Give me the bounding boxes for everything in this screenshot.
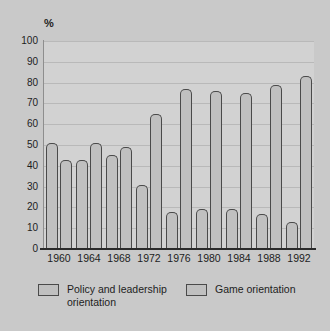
bar-1964-policy xyxy=(76,160,88,249)
y-tick-label-80: 80 xyxy=(14,78,38,88)
bar-group-1960 xyxy=(46,41,72,249)
bar-1980-policy xyxy=(196,209,208,249)
bar-group-1972 xyxy=(136,41,162,249)
bar-group-1980 xyxy=(196,41,222,249)
bar-group-1968 xyxy=(106,41,132,249)
legend-swatch-policy xyxy=(38,284,59,296)
y-tick-label-60: 60 xyxy=(14,119,38,129)
bar-1960-game xyxy=(60,160,72,249)
legend-label-policy-line2: orientation xyxy=(67,296,116,308)
bar-1968-policy xyxy=(106,155,118,249)
y-tick-label-70: 70 xyxy=(14,98,38,108)
plot-area xyxy=(44,41,314,249)
legend-label-policy-line1: Policy and leadership xyxy=(67,283,167,295)
bar-1988-policy xyxy=(256,214,268,249)
legend-item-game: Game orientation xyxy=(186,283,296,296)
bar-group-1964 xyxy=(76,41,102,249)
bar-1976-game xyxy=(180,89,192,249)
x-axis-tick-labels: 196019641968197219761980198419881992 xyxy=(44,252,314,268)
bar-1972-policy xyxy=(136,185,148,249)
bar-1980-game xyxy=(210,91,222,249)
bar-1960-policy xyxy=(46,143,58,249)
bar-1972-game xyxy=(150,114,162,249)
y-tick-label-20: 20 xyxy=(14,202,38,212)
y-tick-label-30: 30 xyxy=(14,182,38,192)
y-axis-unit-label: % xyxy=(44,17,54,29)
chart-figure: % 1009080706050403020100 196019641968197… xyxy=(0,0,330,331)
y-tick-label-90: 90 xyxy=(14,57,38,67)
y-tick-label-0: 0 xyxy=(14,244,38,254)
bar-1992-policy xyxy=(286,222,298,249)
bar-group-1984 xyxy=(226,41,252,249)
y-tick-label-100: 100 xyxy=(14,36,38,46)
y-tick-label-10: 10 xyxy=(14,223,38,233)
bar-1964-game xyxy=(90,143,102,249)
bar-group-1988 xyxy=(256,41,282,249)
y-axis-tick-labels: 1009080706050403020100 xyxy=(8,41,38,249)
bar-1992-game xyxy=(300,76,312,249)
bar-group-1992 xyxy=(286,41,312,249)
chart-legend: Policy and leadership orientation Game o… xyxy=(38,283,318,308)
bar-1968-game xyxy=(120,147,132,249)
y-tick-label-40: 40 xyxy=(14,161,38,171)
x-axis-line xyxy=(40,248,316,250)
bar-group-1976 xyxy=(166,41,192,249)
bar-1988-game xyxy=(270,85,282,249)
legend-item-policy: Policy and leadership orientation xyxy=(38,283,186,308)
legend-swatch-game xyxy=(186,284,207,296)
legend-label-policy: Policy and leadership orientation xyxy=(67,283,167,308)
x-tick-label-1992: 1992 xyxy=(279,252,319,264)
legend-label-game: Game orientation xyxy=(215,283,296,296)
bar-1976-policy xyxy=(166,212,178,249)
bar-1984-game xyxy=(240,93,252,249)
y-tick-label-50: 50 xyxy=(14,140,38,150)
bar-1984-policy xyxy=(226,209,238,249)
